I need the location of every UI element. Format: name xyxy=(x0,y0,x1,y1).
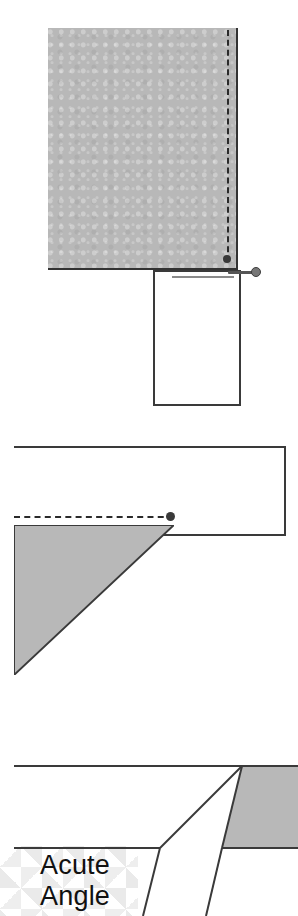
folded-triangle-gray xyxy=(14,525,174,675)
diagram-page: Acute Angle xyxy=(0,0,298,916)
fabric-edge-right xyxy=(236,28,238,272)
acute-point-right-edge-lower xyxy=(206,848,222,916)
fold-line xyxy=(172,276,234,278)
acute-angle-label-line1: Acute xyxy=(40,850,170,881)
triangle-shape-icon xyxy=(14,525,174,675)
acute-angle-label-line2: Angle xyxy=(40,881,170,912)
fabric-piece-white-lower xyxy=(153,270,241,406)
fabric-piece-gray xyxy=(48,28,238,270)
seam-line-dashed xyxy=(227,30,229,262)
seam-line-dashed xyxy=(14,516,174,518)
fabric-strip-white xyxy=(14,446,286,536)
panel-pinned-seam-corner xyxy=(0,0,298,420)
pin-head-icon xyxy=(251,267,261,277)
panel-folded-corner-seam xyxy=(0,430,298,690)
acute-angle-label: Acute Angle xyxy=(40,850,170,912)
panel-acute-angle-detail: Acute Angle xyxy=(0,700,298,916)
seam-endpoint-dot xyxy=(223,255,231,263)
seam-endpoint-dot xyxy=(166,512,175,521)
fabric-piece-gray xyxy=(222,766,298,848)
